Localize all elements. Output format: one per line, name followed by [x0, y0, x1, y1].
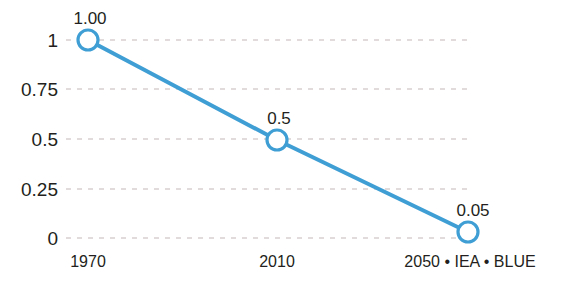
data-point-value-label-2010: 0.5 — [267, 110, 291, 127]
y-axis-tick-label-0-75: 0.75 — [21, 80, 58, 99]
data-point-marker-2050 — [458, 222, 478, 242]
y-axis-tick-label-0-5: 0.5 — [32, 130, 58, 149]
plot-area: 1 0.75 0.5 0.25 0 1970 2010 2050 • IEA •… — [0, 0, 574, 288]
y-axis-tick-label-0-25: 0.25 — [21, 180, 58, 199]
y-axis-tick-label-1: 1 — [47, 31, 58, 50]
data-point-marker-2010 — [267, 130, 287, 150]
data-point-value-label-1970: 1.00 — [73, 10, 106, 27]
x-axis-tick-label-2050-iea-blue: 2050 • IEA • BLUE — [404, 254, 535, 270]
y-axis-tick-label-0: 0 — [47, 229, 58, 248]
data-point-markers — [78, 30, 478, 242]
data-point-value-label-2050: 0.05 — [456, 202, 489, 219]
data-point-marker-1970 — [78, 30, 98, 50]
x-axis-tick-label-2010: 2010 — [259, 254, 295, 270]
line-chart: 1 0.75 0.5 0.25 0 1970 2010 2050 • IEA •… — [0, 0, 574, 288]
x-axis-tick-label-1970: 1970 — [70, 254, 106, 270]
chart-canvas — [0, 0, 574, 288]
